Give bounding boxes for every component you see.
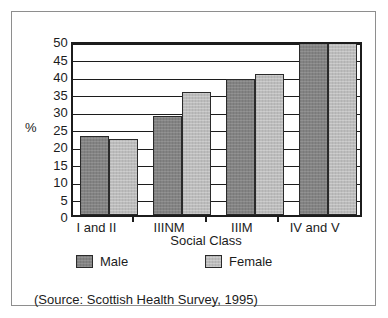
y-axis-tick-label: 40 [26,71,68,84]
legend-label: Female [229,255,272,268]
bar-female-iiinm [182,92,211,215]
bar-female-iiim [255,74,284,215]
x-axis-title: Social Class [12,234,388,247]
legend-item-male[interactable]: Male [76,255,128,268]
source-note: (Source: Scottish Health Survey, 1995) [34,293,258,306]
chart-legend: MaleFemale [12,255,388,273]
bar-male-i-and-ii [80,136,109,215]
y-axis-tick-label: 10 [26,176,68,189]
bar-male-iiinm [153,116,182,215]
y-axis-tick-label: 35 [26,88,68,101]
female-swatch [205,255,222,268]
y-axis-tick-label: 50 [26,36,68,49]
bar-male-iv-and-v [299,43,328,215]
bar-male-iiim [226,79,255,216]
figure-frame: % 05101520253035404550 I and IIIIINMIIIM… [11,11,376,306]
x-axis-tick-label: IV and V [265,221,365,234]
bar-female-i-and-ii [109,139,138,215]
y-axis-tick-label: 25 [26,123,68,136]
male-swatch [76,255,93,268]
figure: % 05101520253035404550 I and IIIIINMIIIM… [0,0,388,318]
legend-label: Male [100,255,128,268]
y-axis-tick-label: 15 [26,158,68,171]
y-axis-tick-label: 45 [26,53,68,66]
plot-canvas [71,42,362,217]
bar-female-iv-and-v [328,43,357,215]
y-axis-tick-label: 5 [26,193,68,206]
y-axis-tick-label: 30 [26,106,68,119]
plot-area [71,42,362,217]
legend-item-female[interactable]: Female [205,255,272,268]
y-axis-tick-labels: 05101520253035404550 [20,42,68,217]
y-axis-tick-label: 20 [26,141,68,154]
